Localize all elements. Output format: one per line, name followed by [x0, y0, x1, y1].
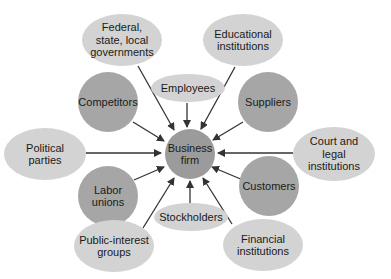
arrow-labor [134, 167, 164, 180]
node-label: Court and legal institutions [308, 135, 360, 173]
node-financial-institutions: Financial institutions [223, 219, 303, 271]
node-label: Employees [161, 82, 215, 95]
node-label: Federal, state, local governments [90, 21, 154, 59]
node-business-firm: Business firm [165, 129, 215, 179]
node-label: Financial institutions [237, 233, 289, 258]
node-suppliers: Suppliers [238, 72, 298, 132]
node-customers: Customers [239, 156, 299, 216]
node-court-legal-institutions: Court and legal institutions [293, 127, 375, 181]
arrow-customers [212, 167, 243, 180]
node-label: Public-interest groups [79, 234, 149, 259]
node-educational-institutions: Educational institutions [203, 14, 283, 66]
node-label: Suppliers [245, 96, 291, 109]
node-label: Educational institutions [214, 28, 272, 53]
node-competitors: Competitors [78, 72, 138, 132]
node-label: Stockholders [159, 211, 223, 224]
node-stockholders: Stockholders [154, 203, 228, 231]
node-labor-unions: Labor unions [78, 166, 138, 226]
stakeholder-diagram: Federal, state, local governments Educat… [0, 0, 391, 279]
node-label: Labor unions [92, 184, 124, 209]
center-label: Business firm [168, 142, 213, 167]
node-public-interest-groups: Public-interest groups [74, 220, 154, 272]
node-label: Customers [242, 180, 295, 193]
node-label: Competitors [78, 96, 137, 109]
node-employees: Employees [151, 74, 225, 102]
arrow-competitors [133, 122, 164, 141]
arrow-suppliers [213, 122, 243, 140]
node-label: Political parties [26, 142, 64, 167]
node-federal-governments: Federal, state, local governments [82, 14, 162, 66]
node-political-parties: Political parties [4, 128, 86, 180]
